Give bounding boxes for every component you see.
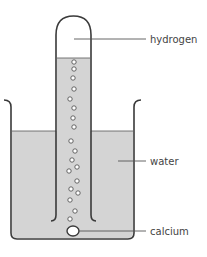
bubble [70, 158, 74, 162]
bubble [72, 106, 76, 110]
hydrogen-label: hydrogen [150, 34, 197, 45]
bubble [69, 187, 73, 191]
hydrogen-gas-region [57, 17, 90, 58]
bubble [73, 209, 77, 213]
bubble [68, 217, 72, 221]
bubble [68, 198, 72, 202]
bubble [72, 67, 76, 71]
bubble [75, 179, 79, 183]
diagram-canvas: hydrogen water calcium [0, 0, 207, 257]
bubble [75, 165, 79, 169]
bubble [72, 60, 76, 64]
calcium-label: calcium [150, 226, 189, 237]
test-tube-water [57, 58, 90, 222]
bubble [71, 116, 75, 120]
bubble [72, 125, 76, 129]
bubble [71, 76, 75, 80]
calcium-lump [67, 226, 79, 236]
bubble [72, 87, 76, 91]
bubble [69, 139, 73, 143]
bubble [67, 169, 71, 173]
bubble [68, 97, 72, 101]
bubble [73, 149, 77, 153]
water-label: water [150, 156, 179, 167]
bubble [76, 191, 80, 195]
